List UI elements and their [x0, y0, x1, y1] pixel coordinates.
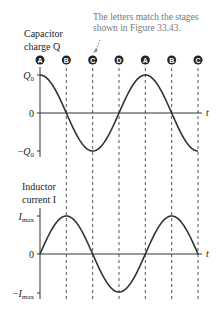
chart-title-line: charge Q [24, 41, 61, 52]
stage-marker-label: B [169, 57, 174, 64]
y-tick-label: −Q0 [18, 146, 35, 159]
y-tick-label: Q0 [23, 70, 34, 83]
stage-marker-label: C [195, 57, 200, 64]
y-tick-label: Imax [18, 211, 35, 224]
x-axis-label: t [206, 248, 209, 259]
y-tick-label: −Imax [13, 288, 35, 301]
stage-marker-label: A [37, 57, 42, 64]
stage-marker-label: B [64, 57, 69, 64]
x-axis-label: t [206, 107, 209, 118]
chart-title-line: Capacitor [24, 28, 64, 39]
annotation-arrowhead [93, 48, 98, 53]
chart-title-line: Inductor [22, 181, 57, 192]
stage-marker-label: A [143, 57, 148, 64]
stage-marker-label: D [116, 57, 121, 64]
chart-title-line: current I [22, 194, 56, 205]
y-tick-label: 0 [29, 249, 34, 260]
annotation-line: shown in Figure 33.43. [93, 23, 181, 33]
y-tick-label: 0 [29, 108, 34, 119]
annotation-line: The letters match the stages [93, 12, 199, 22]
stage-marker-label: C [90, 57, 95, 64]
lc-oscillation-figure: The letters match the stagesshown in Fig… [0, 0, 220, 311]
